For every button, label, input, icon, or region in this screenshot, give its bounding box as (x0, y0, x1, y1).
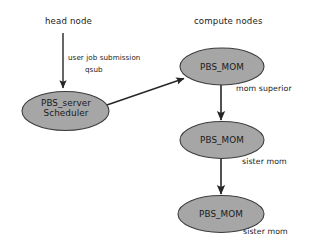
node-sister-mom-2 (178, 196, 264, 233)
diagram-canvas (0, 0, 309, 247)
node-sister-mom-1 (180, 122, 264, 159)
node-mom-superior (180, 48, 264, 85)
node-pbs-server (22, 92, 109, 131)
pbs-architecture-diagram: head node compute nodes user job submiss… (0, 0, 309, 247)
edge-server-to-mom-superior (104, 79, 184, 107)
